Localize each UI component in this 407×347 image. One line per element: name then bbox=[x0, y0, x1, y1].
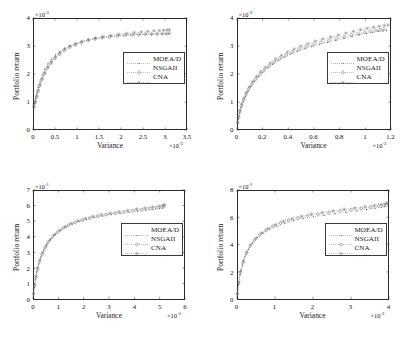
chart-legend[interactable]: MOEA/D NSGAII CNA bbox=[325, 223, 387, 256]
legend-label: NSGAII bbox=[356, 64, 381, 72]
legend-label: CNA bbox=[354, 244, 370, 252]
x-tick-label: 3 bbox=[340, 303, 362, 310]
star-marker-icon bbox=[330, 73, 356, 82]
x-tick-label: 0 bbox=[226, 133, 248, 140]
y-axis-multiplier: ×10-1 bbox=[239, 182, 253, 190]
diamond-marker-icon bbox=[126, 63, 152, 72]
diamond-marker-icon bbox=[330, 63, 356, 72]
y-tick-label: 0 bbox=[219, 296, 234, 303]
legend-label: NSGAII bbox=[150, 235, 175, 243]
y-axis-label: Portfolio return bbox=[216, 53, 225, 100]
chart-panel-bottom-right: 0123402468×10-1×10-3VariancePortfolio re… bbox=[204, 174, 407, 347]
chart-panel-top-right: 00.20.40.60.811.201234×10-3×10-3Variance… bbox=[204, 0, 407, 174]
x-tick-label: 4 bbox=[378, 303, 400, 310]
x-tick-label: 2 bbox=[73, 303, 95, 310]
dot-marker-icon bbox=[124, 226, 150, 235]
y-tick-label: 4 bbox=[15, 14, 30, 21]
y-tick-label: 8 bbox=[219, 186, 234, 193]
x-axis-label: Variance bbox=[237, 141, 391, 150]
x-tick-label: 0 bbox=[22, 303, 44, 310]
x-tick-label: 2 bbox=[302, 303, 324, 310]
legend-item-MOEA-D[interactable]: MOEA/D bbox=[126, 54, 181, 63]
x-axis-label: Variance bbox=[33, 311, 185, 320]
chart-panel-bottom-left: 012345601234567×10-1×10-3VariancePortfol… bbox=[0, 174, 204, 347]
legend-label: NSGAII bbox=[354, 235, 379, 243]
x-tick-label: 0.4 bbox=[277, 133, 299, 140]
legend-item-NSGAII[interactable]: NSGAII bbox=[328, 235, 383, 244]
x-tick-label: 0.8 bbox=[328, 133, 350, 140]
legend-item-NSGAII[interactable]: NSGAII bbox=[126, 63, 181, 72]
legend-item-MOEA-D[interactable]: MOEA/D bbox=[124, 226, 179, 235]
legend-item-CNA[interactable]: CNA bbox=[124, 244, 179, 253]
x-tick-label: 6 bbox=[174, 303, 196, 310]
y-tick-label: 7 bbox=[15, 186, 30, 193]
dot-marker-icon bbox=[328, 226, 354, 235]
legend-label: MOEA/D bbox=[150, 226, 179, 234]
chart-legend[interactable]: MOEA/D NSGAII CNA bbox=[327, 52, 389, 85]
y-axis-label: Portfolio return bbox=[12, 53, 21, 100]
x-tick-label: 5 bbox=[149, 303, 171, 310]
legend-label: MOEA/D bbox=[354, 226, 383, 234]
x-tick-label: 4 bbox=[123, 303, 145, 310]
x-tick-label: 0.2 bbox=[251, 133, 273, 140]
y-axis-multiplier: ×10-3 bbox=[239, 10, 253, 18]
dot-marker-icon bbox=[330, 54, 356, 63]
y-tick-label: 3 bbox=[15, 42, 30, 49]
x-axis-label: Variance bbox=[237, 311, 389, 320]
x-tick-label: 1 bbox=[47, 303, 69, 310]
x-tick-label: 1.2 bbox=[380, 133, 402, 140]
legend-item-MOEA-D[interactable]: MOEA/D bbox=[328, 226, 383, 235]
legend-item-CNA[interactable]: CNA bbox=[126, 72, 181, 81]
plot-canvas bbox=[0, 174, 204, 347]
y-tick-label: 0 bbox=[219, 126, 234, 133]
plot-canvas bbox=[204, 174, 407, 347]
y-tick-label: 6 bbox=[15, 202, 30, 209]
star-marker-icon bbox=[126, 73, 152, 82]
x-tick-label: 1 bbox=[354, 133, 376, 140]
diamond-marker-icon bbox=[124, 235, 150, 244]
x-tick-label: 3 bbox=[98, 303, 120, 310]
legend-item-NSGAII[interactable]: NSGAII bbox=[330, 63, 385, 72]
x-tick-label: 0 bbox=[226, 303, 248, 310]
x-tick-label: 0.6 bbox=[303, 133, 325, 140]
y-axis-label: Portfolio return bbox=[216, 224, 225, 271]
legend-item-MOEA-D[interactable]: MOEA/D bbox=[330, 54, 385, 63]
x-tick-label: 1 bbox=[66, 133, 88, 140]
x-tick-label: 2 bbox=[110, 133, 132, 140]
x-tick-label: 1 bbox=[264, 303, 286, 310]
star-marker-icon bbox=[124, 244, 150, 253]
y-tick-label: 0 bbox=[15, 296, 30, 303]
x-axis-label: Variance bbox=[33, 141, 187, 150]
y-axis-label: Portfolio return bbox=[12, 224, 21, 271]
legend-item-NSGAII[interactable]: NSGAII bbox=[124, 235, 179, 244]
y-axis-multiplier: ×10-1 bbox=[35, 182, 49, 190]
x-tick-label: 1.5 bbox=[88, 133, 110, 140]
x-tick-label: 0 bbox=[22, 133, 44, 140]
legend-item-CNA[interactable]: CNA bbox=[328, 244, 383, 253]
x-tick-label: 2.5 bbox=[132, 133, 154, 140]
chart-legend[interactable]: MOEA/D NSGAII CNA bbox=[121, 223, 183, 256]
x-tick-label: 3 bbox=[154, 133, 176, 140]
legend-label: MOEA/D bbox=[152, 55, 181, 63]
figure-grid: 00.511.522.533.501234×10-3×10-3VarianceP… bbox=[0, 0, 407, 347]
y-tick-label: 0 bbox=[15, 126, 30, 133]
y-tick-label: 6 bbox=[219, 214, 234, 221]
y-tick-label: 3 bbox=[219, 42, 234, 49]
diamond-marker-icon bbox=[328, 235, 354, 244]
dot-marker-icon bbox=[126, 54, 152, 63]
legend-item-CNA[interactable]: CNA bbox=[330, 72, 385, 81]
legend-label: CNA bbox=[356, 73, 372, 81]
y-tick-label: 4 bbox=[219, 14, 234, 21]
x-tick-label: 3.5 bbox=[176, 133, 198, 140]
legend-label: CNA bbox=[152, 73, 168, 81]
legend-label: NSGAII bbox=[152, 64, 177, 72]
y-tick-label: 1 bbox=[15, 280, 30, 287]
chart-legend[interactable]: MOEA/D NSGAII CNA bbox=[123, 52, 185, 85]
legend-label: MOEA/D bbox=[356, 55, 385, 63]
chart-panel-top-left: 00.511.522.533.501234×10-3×10-3VarianceP… bbox=[0, 0, 204, 174]
legend-label: CNA bbox=[150, 244, 166, 252]
x-tick-label: 0.5 bbox=[44, 133, 66, 140]
star-marker-icon bbox=[328, 244, 354, 253]
y-axis-multiplier: ×10-3 bbox=[35, 10, 49, 18]
